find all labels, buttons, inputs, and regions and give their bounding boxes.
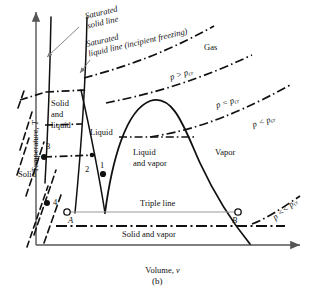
label-solid: Solid	[18, 170, 36, 180]
label-p-equal-text: p = p	[215, 95, 236, 110]
marker-state-1	[100, 171, 106, 177]
label-state-3: 3	[46, 142, 50, 152]
label-liquid: Liquid	[90, 128, 113, 138]
label-point-b: B	[232, 216, 237, 226]
marker-state-2	[90, 153, 95, 158]
label-vapor: Vapor	[215, 148, 235, 158]
segment-solid-liquid-upper	[46, 90, 86, 92]
label-state-1: 1	[100, 161, 104, 171]
leader-saturated-solid	[47, 27, 79, 57]
callout-leaders	[47, 27, 90, 73]
label-p-less-text: p < p	[251, 114, 272, 129]
label-gas: Gas	[204, 43, 217, 53]
label-state-4: 4	[53, 198, 57, 208]
label-triple-line: Triple line	[140, 199, 175, 209]
x-axis-label-symbol: v	[176, 265, 180, 275]
y-axis-label-symbol: T	[29, 120, 39, 125]
vapor-dome	[105, 100, 250, 244]
label-liquid-and-vapor: Liquid and vapor	[133, 147, 167, 169]
vapor-dome-curve	[105, 100, 250, 244]
figure-caption: (b)	[152, 277, 163, 287]
label-solid-and-liquid: Solid and liquid	[51, 98, 71, 131]
label-state-2: 2	[85, 165, 89, 175]
x-axis-label-text: Volume,	[145, 265, 176, 275]
label-solid-and-vapor: Solid and vapor	[122, 230, 176, 240]
y-axis-label-text: Temperature,	[29, 125, 39, 172]
y-axis-label: Temperature, T	[12, 175, 85, 223]
phase-diagram-figure: Temperature, T Volume, v (b) Saturated s…	[0, 0, 319, 293]
label-p-greater-text: p > p	[169, 67, 190, 82]
label-point-a: A	[68, 216, 73, 226]
segment-solid-3	[44, 155, 95, 157]
